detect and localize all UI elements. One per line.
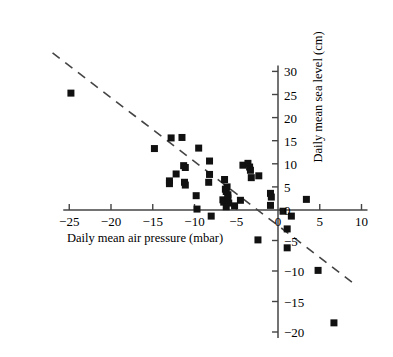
data-point-marker (67, 90, 74, 97)
data-point-marker (268, 194, 275, 201)
data-point-marker (255, 172, 262, 179)
data-point-marker (195, 145, 202, 152)
data-point-marker (173, 170, 180, 177)
data-point-marker (315, 267, 322, 274)
data-point-marker (166, 180, 173, 187)
data-point-marker (303, 196, 310, 203)
y-tick-label: 5 (284, 180, 291, 193)
x-tick-label: −20 (101, 215, 121, 228)
x-tick-label: 0 (275, 215, 282, 228)
y-tick-label: 0 (284, 204, 291, 217)
data-point-marker (284, 225, 291, 232)
x-tick-label: −10 (184, 215, 204, 228)
data-point-marker (267, 202, 274, 209)
x-axis-title: Daily mean air pressure (mbar) (67, 231, 223, 246)
plot-canvas (0, 0, 393, 357)
y-tick-label: 15 (284, 134, 297, 147)
data-point-marker (182, 182, 189, 189)
data-point-marker (168, 134, 175, 141)
data-point-marker (248, 174, 255, 181)
data-point-marker (194, 206, 201, 213)
scatter-plot-figure: −25−20−15−10−50510−20−15−10−505101520253… (0, 0, 393, 357)
data-point-marker (151, 145, 158, 152)
y-tick-label: 10 (284, 157, 297, 170)
data-point-marker (330, 319, 337, 326)
data-point-marker (182, 164, 189, 171)
y-tick-label: 25 (284, 88, 297, 101)
x-tick-label: −5 (229, 215, 243, 228)
y-tick-label: 30 (284, 65, 297, 78)
x-tick-label: −25 (59, 215, 79, 228)
y-tick-label: 20 (284, 111, 297, 124)
data-point-marker (205, 179, 212, 186)
data-point-marker (231, 202, 238, 209)
y-axis-title: Daily mean sea level (cm) (311, 31, 326, 162)
data-point-marker (178, 134, 185, 141)
data-point-marker (254, 236, 261, 243)
data-point-marker (224, 183, 231, 190)
y-tick-label: −15 (284, 295, 304, 308)
data-point-marker (206, 171, 213, 178)
data-point-marker (208, 213, 215, 220)
y-tick-label: −20 (284, 326, 304, 339)
data-point-marker (247, 167, 254, 174)
data-point-marker (193, 192, 200, 199)
y-tick-label: −5 (284, 234, 298, 247)
x-tick-label: 5 (317, 215, 324, 228)
x-tick-label: −15 (143, 215, 163, 228)
x-tick-label: 10 (355, 215, 368, 228)
data-point-marker (206, 158, 213, 165)
data-point-marker (221, 176, 228, 183)
y-tick-label: −10 (284, 265, 304, 278)
data-points (67, 90, 337, 327)
